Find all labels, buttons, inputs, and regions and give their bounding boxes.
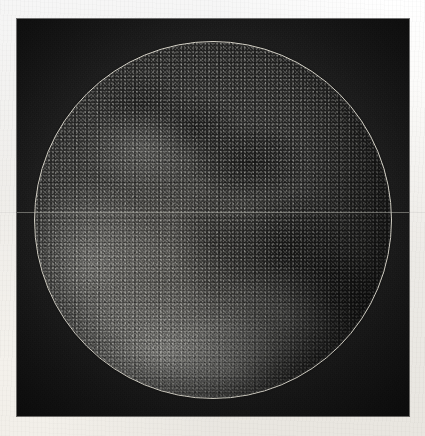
south-east-limb-shadow <box>35 42 391 398</box>
crater-stipple-coarse <box>35 42 391 398</box>
lunar-plate-figure <box>0 0 425 436</box>
highland-regions <box>35 42 391 398</box>
crater-stipple-fine <box>35 42 391 398</box>
crater-stipple-sparse <box>35 42 391 398</box>
engraving-hatching <box>35 42 391 398</box>
maria-regions <box>35 42 391 398</box>
lunar-disc <box>35 42 391 398</box>
printed-plate <box>17 19 409 416</box>
